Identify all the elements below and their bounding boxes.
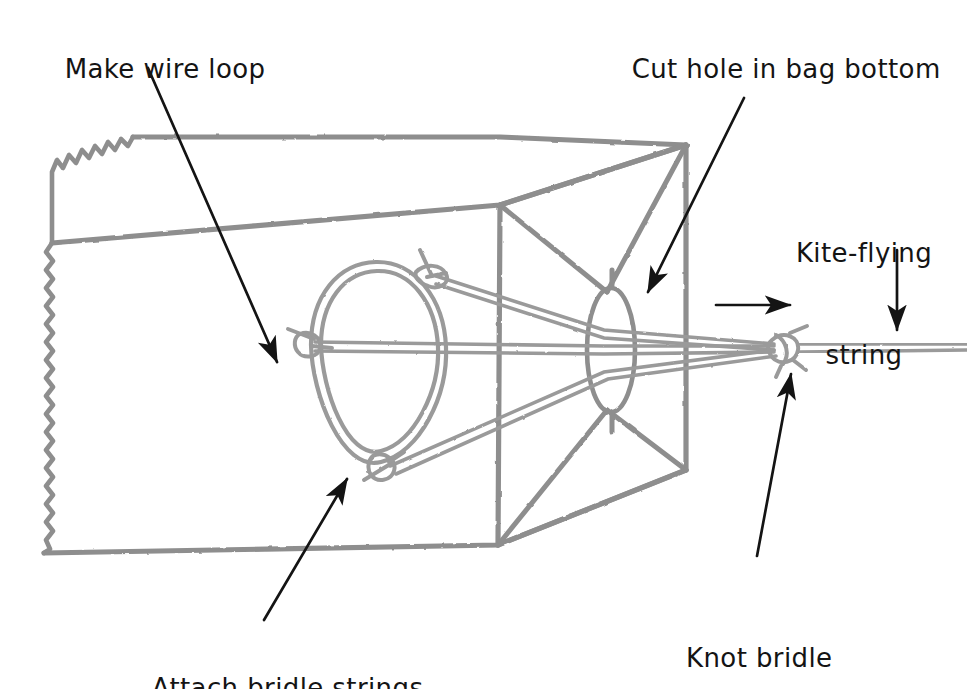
label-knot-bridle-strings-line1: Knot bridle [686, 641, 832, 675]
cut-hole-oval [587, 288, 635, 412]
bridle-string-top [436, 276, 774, 350]
wire-loop-knot-bottom [364, 452, 404, 480]
label-attach-bridle-strings-text: Attach bridle strings [152, 673, 424, 689]
label-kite-flying-string-line1: Kite-flying [789, 236, 939, 270]
wire-loop-ring [311, 262, 446, 463]
label-kite-flying-string-line2: string [789, 338, 939, 372]
torn-bag-opening-edge [44, 137, 133, 553]
kite-diagram-canvas: Make wire loop Cut hole in bag bottom Ki… [0, 0, 967, 689]
label-make-wire-loop: Make wire loop [30, 18, 265, 120]
label-kite-flying-string: Kite-flying string [789, 168, 939, 440]
bridle-strings [315, 276, 776, 474]
label-cut-hole-in-bag-bottom: Cut hole in bag bottom [597, 18, 941, 120]
bridle-string-bottom [390, 350, 776, 474]
label-cut-hole-in-bag-bottom-text: Cut hole in bag bottom [632, 54, 941, 84]
leader-cut-hole-in-bag-bottom [648, 98, 744, 292]
label-knot-bridle-strings: Knot bridle strings [686, 573, 832, 689]
label-attach-bridle-strings: Attach bridle strings [117, 637, 423, 689]
label-make-wire-loop-text: Make wire loop [65, 54, 266, 84]
wire-loop-knot-top [416, 250, 448, 287]
leader-knot-bridle-strings [757, 374, 791, 556]
